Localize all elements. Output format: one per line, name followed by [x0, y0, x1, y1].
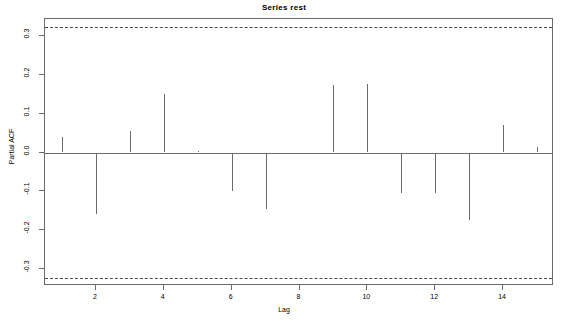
confidence-band-upper: [45, 27, 552, 28]
y-tick-label: 0.2: [23, 61, 30, 85]
pacf-spike: [130, 131, 131, 152]
pacf-figure: Series rest Partial ACF Lag -0.3-0.2-0.1…: [0, 0, 568, 329]
plot-area: [44, 18, 553, 285]
x-tick-mark: [163, 285, 164, 290]
x-tick-mark: [366, 285, 367, 290]
y-tick-label: -0.1: [23, 177, 30, 201]
confidence-band-lower: [45, 278, 552, 279]
pacf-spike: [469, 153, 470, 221]
x-tick-label: 12: [424, 293, 444, 300]
x-tick-label: 2: [85, 293, 105, 300]
pacf-spike: [164, 94, 165, 153]
pacf-spike: [537, 147, 538, 153]
y-tick-label: 0.1: [23, 99, 30, 123]
x-tick-label: 14: [492, 293, 512, 300]
pacf-spike: [266, 153, 267, 209]
y-tick-label: 0.0: [23, 138, 30, 162]
pacf-spike: [96, 153, 97, 215]
x-tick-label: 8: [289, 293, 309, 300]
zero-axis-line: [45, 153, 552, 154]
x-tick-mark: [434, 285, 435, 290]
pacf-spike: [435, 153, 436, 194]
pacf-spike: [62, 137, 63, 152]
y-axis-label: Partial ACF: [8, 117, 15, 177]
x-axis-label: Lag: [0, 306, 568, 313]
page-title: Series rest: [0, 3, 568, 12]
pacf-spike: [367, 84, 368, 153]
pacf-spike: [503, 125, 504, 153]
x-tick-mark: [95, 285, 96, 290]
pacf-spike: [198, 151, 199, 153]
x-tick-mark: [502, 285, 503, 290]
y-tick-label: -0.2: [23, 215, 30, 239]
y-tick-label: -0.3: [23, 254, 30, 278]
x-tick-label: 4: [153, 293, 173, 300]
x-tick-label: 10: [356, 293, 376, 300]
pacf-spike: [401, 153, 402, 194]
y-tick-label: 0.3: [23, 22, 30, 46]
x-tick-mark: [299, 285, 300, 290]
pacf-spike: [333, 85, 334, 153]
x-tick-mark: [231, 285, 232, 290]
pacf-spike: [232, 153, 233, 192]
pacf-spike: [300, 153, 301, 154]
x-tick-label: 6: [221, 293, 241, 300]
